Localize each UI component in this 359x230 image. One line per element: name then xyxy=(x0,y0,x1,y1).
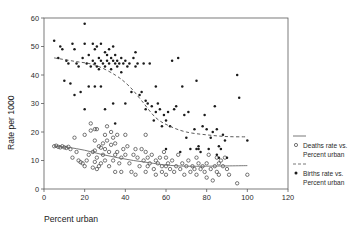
data-point-births xyxy=(79,91,82,94)
data-point-deaths xyxy=(164,173,167,176)
data-point-births xyxy=(151,105,154,108)
data-point-births xyxy=(181,85,184,88)
data-point-deaths xyxy=(105,125,108,128)
data-point-deaths xyxy=(195,173,198,176)
data-point-births xyxy=(197,148,200,151)
x-tick-label: 100 xyxy=(241,193,253,202)
chart-figure: 0102030405060 020406080100120 Rate per 1… xyxy=(0,0,359,230)
data-point-births xyxy=(114,62,117,65)
data-point-births xyxy=(108,62,111,65)
data-point-births xyxy=(195,79,198,82)
data-point-deaths xyxy=(154,173,157,176)
data-point-births xyxy=(71,42,74,45)
x-tick-label: 40 xyxy=(121,193,129,202)
data-point-births xyxy=(83,22,86,25)
data-point-deaths xyxy=(217,173,220,176)
data-point-births xyxy=(222,134,225,137)
data-point-births xyxy=(173,108,176,111)
data-point-births xyxy=(209,136,212,139)
x-tick-label: 0 xyxy=(42,193,46,202)
data-point-deaths xyxy=(109,130,112,133)
data-point-births xyxy=(83,108,86,111)
data-point-births xyxy=(87,85,90,88)
data-point-deaths xyxy=(187,159,190,162)
data-point-births xyxy=(81,57,84,60)
data-point-deaths xyxy=(195,156,198,159)
data-point-deaths xyxy=(122,147,125,150)
data-point-births xyxy=(112,45,115,48)
data-point-deaths xyxy=(207,153,210,156)
data-point-deaths xyxy=(144,133,147,136)
data-point-deaths xyxy=(144,150,147,153)
legend-births-label-line2: Percent urban xyxy=(303,179,345,186)
x-tick-label: 20 xyxy=(81,193,89,202)
data-point-births xyxy=(110,57,113,60)
data-point-deaths xyxy=(219,159,222,162)
data-point-births xyxy=(108,48,111,51)
data-point-births xyxy=(106,60,109,63)
data-point-deaths xyxy=(113,170,116,173)
data-point-deaths xyxy=(177,153,180,156)
data-point-deaths xyxy=(197,162,200,165)
data-point-deaths xyxy=(101,142,104,145)
data-point-deaths xyxy=(227,173,230,176)
data-point-births xyxy=(203,114,206,117)
y-tick-label: 10 xyxy=(31,156,39,165)
data-point-births xyxy=(144,99,147,102)
data-point-births xyxy=(96,65,99,68)
data-point-deaths xyxy=(116,150,119,153)
data-point-births xyxy=(136,62,139,65)
y-tick-label: 20 xyxy=(31,128,39,137)
data-point-births xyxy=(116,65,119,68)
data-point-deaths xyxy=(172,170,175,173)
data-point-births xyxy=(163,114,166,117)
data-point-births xyxy=(124,60,127,63)
data-point-births xyxy=(116,60,119,63)
y-tick-label: 0 xyxy=(35,185,39,194)
data-point-deaths xyxy=(152,167,155,170)
data-point-births xyxy=(138,94,141,97)
data-point-births xyxy=(67,62,70,65)
data-point-births xyxy=(201,125,204,128)
data-point-births xyxy=(216,128,219,131)
data-point-births xyxy=(114,122,117,125)
data-point-deaths xyxy=(103,159,106,162)
data-point-births xyxy=(94,85,97,88)
data-point-births xyxy=(110,68,113,71)
data-point-births xyxy=(134,65,137,68)
data-point-births xyxy=(83,42,86,45)
data-point-births xyxy=(199,151,202,154)
data-point-births xyxy=(96,45,99,48)
y-axis-title: Rate per 1000 xyxy=(6,95,16,150)
data-point-deaths xyxy=(183,173,186,176)
data-point-births xyxy=(183,114,186,117)
legend-births-label-line1: Births rate vs. xyxy=(303,170,343,177)
data-point-deaths xyxy=(75,150,78,153)
data-point-births xyxy=(114,54,117,57)
data-point-deaths xyxy=(168,167,171,170)
data-point-deaths xyxy=(146,156,149,159)
data-point-deaths xyxy=(189,170,192,173)
data-point-births xyxy=(177,57,180,60)
legend-births-marker xyxy=(295,172,298,175)
data-point-births xyxy=(214,105,217,108)
data-point-births xyxy=(73,48,76,51)
data-point-deaths xyxy=(170,159,173,162)
legend-deaths-marker xyxy=(294,143,297,146)
data-point-deaths xyxy=(132,153,135,156)
data-point-births xyxy=(185,136,188,139)
data-point-births xyxy=(120,71,123,74)
data-point-births xyxy=(167,111,170,114)
data-point-deaths xyxy=(134,173,137,176)
data-point-births xyxy=(165,148,168,151)
y-tick-label: 50 xyxy=(31,42,39,51)
data-point-births xyxy=(63,79,66,82)
data-point-births xyxy=(75,62,78,65)
data-point-deaths xyxy=(71,156,74,159)
data-point-births xyxy=(189,148,192,151)
data-point-births xyxy=(132,57,135,60)
data-point-deaths xyxy=(105,139,108,142)
x-tick-label: 80 xyxy=(203,193,211,202)
data-point-births xyxy=(216,154,219,157)
data-point-births xyxy=(120,57,123,60)
